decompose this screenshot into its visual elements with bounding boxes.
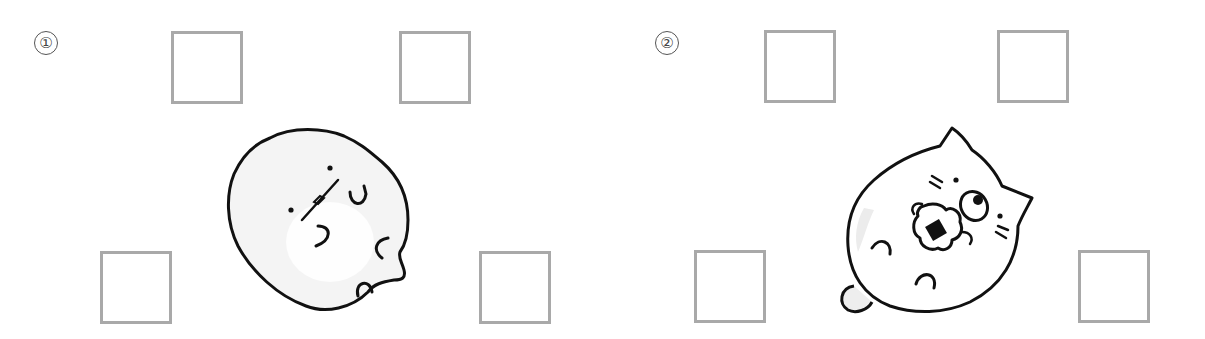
answer-text [1000, 33, 1066, 100]
answer-box-top-right[interactable] [997, 30, 1069, 103]
cat-character-icon [834, 118, 1034, 318]
answer-box-bottom-left[interactable] [100, 251, 172, 324]
blob-character-icon [222, 122, 412, 318]
answer-text [103, 254, 169, 321]
answer-box-top-right[interactable] [399, 31, 471, 104]
problem-2: ② [600, 0, 1205, 339]
answer-text [482, 254, 548, 321]
problem-number-label: ① [34, 31, 58, 55]
answer-text [767, 33, 833, 100]
answer-text [1081, 253, 1147, 320]
answer-box-top-left[interactable] [764, 30, 836, 103]
problem-number-label: ② [655, 31, 679, 55]
answer-text [174, 34, 240, 101]
answer-box-bottom-right[interactable] [479, 251, 551, 324]
problem-1: ① [0, 0, 600, 339]
cat-character-illustration [834, 118, 1034, 318]
answer-text [402, 34, 468, 101]
answer-box-bottom-right[interactable] [1078, 250, 1150, 323]
answer-box-top-left[interactable] [171, 31, 243, 104]
answer-text [697, 253, 763, 320]
answer-box-bottom-left[interactable] [694, 250, 766, 323]
blob-character-illustration [222, 122, 412, 318]
